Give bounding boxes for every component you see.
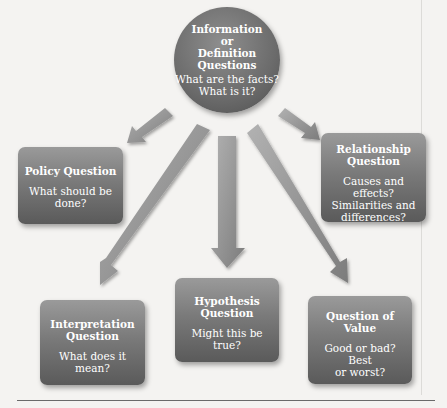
node-title-line: Hypothesis [179, 295, 275, 307]
node-title: Relationship Question [325, 143, 422, 167]
node-title: Question of Value [312, 310, 408, 334]
arrow-to-hypothesis [211, 136, 245, 268]
node-relationship-question: Relationship Question Causes and effects… [321, 133, 426, 222]
node-title-line: Question of [312, 310, 408, 322]
center-node-subtitle: What are the facts? What is it? [174, 73, 280, 97]
node-subtitle-line: done? [22, 197, 119, 209]
node-title-line: Relationship [325, 143, 422, 155]
node-subtitle-line: differences? [325, 211, 422, 223]
node-interpretation-question: Interpretation Question What does it mea… [40, 300, 145, 385]
node-subtitle-line: Similarities and [325, 199, 422, 211]
center-title-line: Definition [174, 47, 280, 59]
center-title-line: or [174, 35, 280, 47]
center-node-information-questions: Information or Definition Questions What… [174, 7, 280, 113]
node-subtitle-line: Good or bad? Best [312, 342, 408, 366]
node-title-line: Question [325, 155, 422, 167]
node-subtitle-line: Causes and effects? [325, 175, 422, 199]
arrow-to-relationship [278, 108, 320, 140]
node-title-line: Value [312, 322, 408, 334]
center-title-line: Information [174, 23, 280, 35]
node-question-of-value: Question of Value Good or bad? Best or w… [308, 296, 412, 384]
node-subtitle: Might this be true? [179, 327, 275, 351]
node-subtitle-line: or worst? [312, 366, 408, 378]
node-subtitle-line: What does it mean? [44, 350, 141, 374]
node-subtitle: What should be done? [22, 185, 119, 209]
node-subtitle: Causes and effects? Similarities and dif… [325, 175, 422, 223]
node-subtitle-line: What should be [22, 185, 119, 197]
center-node-title: Information or Definition Questions [174, 23, 280, 71]
node-policy-question: Policy Question What should be done? [18, 147, 123, 224]
node-title-line: Question [44, 330, 141, 342]
node-subtitle-line: Might this be true? [179, 327, 275, 351]
center-title-line: Questions [174, 59, 280, 71]
node-title: Hypothesis Question [179, 295, 275, 319]
center-subtitle-line: What are the facts? [174, 73, 280, 85]
node-title-line: Question [179, 307, 275, 319]
node-title: Policy Question [22, 165, 119, 177]
arrow-to-policy [127, 108, 173, 143]
node-hypothesis-question: Hypothesis Question Might this be true? [175, 278, 279, 362]
node-subtitle: Good or bad? Best or worst? [312, 342, 408, 378]
node-title-line: Interpretation [44, 318, 141, 330]
horizontal-rule [17, 400, 435, 401]
node-subtitle: What does it mean? [44, 350, 141, 374]
node-title: Interpretation Question [44, 318, 141, 342]
center-subtitle-line: What is it? [174, 85, 280, 97]
